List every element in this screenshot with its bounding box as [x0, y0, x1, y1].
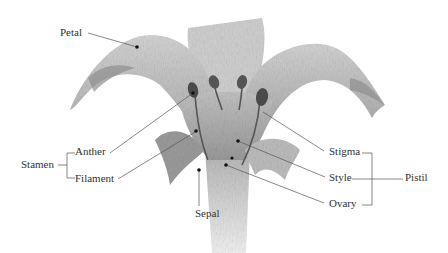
- label-style: Style: [329, 171, 352, 183]
- label-ovary: Ovary: [329, 197, 357, 209]
- label-sepal: Sepal: [195, 207, 219, 219]
- label-stamen: Stamen: [21, 158, 54, 170]
- label-pistil: Pistil: [405, 171, 428, 183]
- label-stigma: Stigma: [329, 145, 360, 157]
- label-petal: Petal: [60, 26, 82, 38]
- flower-diagram: Petal Anther Filament Stamen Stigma Styl…: [0, 0, 448, 253]
- label-filament: Filament: [75, 172, 114, 184]
- label-anther: Anther: [75, 145, 106, 157]
- sepal-right: [245, 139, 300, 180]
